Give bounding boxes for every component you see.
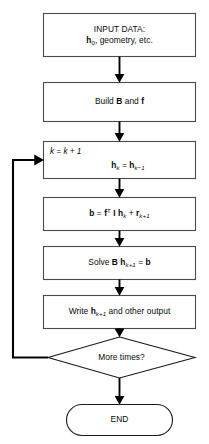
flowchart-vector-layer xyxy=(0,0,209,444)
node-write xyxy=(44,296,196,329)
node-solve xyxy=(44,247,196,280)
node-build xyxy=(44,83,196,122)
counter-expression: k = k + 1 xyxy=(50,147,81,156)
node-end xyxy=(67,405,173,436)
flowchart-canvas: INPUT DATA: h0, geometry, etc. Build B a… xyxy=(0,0,209,444)
node-input-data xyxy=(44,14,196,57)
node-decision xyxy=(48,337,195,378)
edge-feedback-loop xyxy=(13,160,48,358)
iteration-counter-label: k = k + 1 xyxy=(50,147,81,156)
node-residual xyxy=(44,198,196,231)
